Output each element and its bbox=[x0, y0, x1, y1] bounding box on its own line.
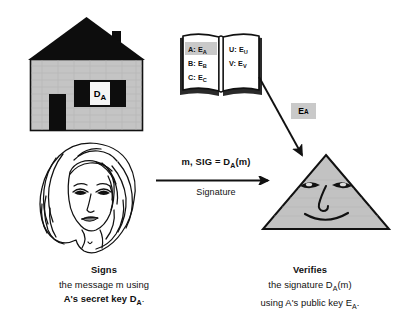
verifier-caption: Verifies the signature DA(m) using A's p… bbox=[212, 263, 408, 314]
diagram-canvas: DA A: EA B: EB C: EC bbox=[0, 0, 413, 327]
house-window-key-label: DA bbox=[90, 88, 110, 102]
woman-face-icon bbox=[26, 138, 156, 260]
house-icon bbox=[28, 14, 148, 134]
verifier-caption-heading: Verifies bbox=[212, 263, 408, 278]
verifier-caption-line-2: using A's public key EA. bbox=[212, 296, 408, 314]
verifier-figure bbox=[260, 152, 392, 234]
public-key-chip: EA bbox=[291, 103, 316, 119]
signer-caption-heading: Signs bbox=[6, 263, 202, 278]
directory-entry-b[interactable]: B: EB bbox=[188, 59, 207, 69]
directory-entry-v[interactable]: V: EV bbox=[229, 59, 247, 69]
signer-figure bbox=[26, 138, 156, 260]
public-key-directory[interactable]: A: EA B: EB C: EC U: EU V: EV bbox=[176, 29, 266, 101]
verifier-caption-line-1: the signature DA(m) bbox=[212, 278, 408, 296]
signer-caption-line-1: the message m using bbox=[6, 278, 202, 293]
house-figure: DA bbox=[28, 14, 148, 134]
signer-caption-line-2: A's secret key DA. bbox=[6, 292, 202, 310]
directory-entry-c[interactable]: C: EC bbox=[188, 73, 207, 83]
directory-entry-a[interactable]: A: EA bbox=[188, 45, 207, 55]
directory-entry-u[interactable]: U: EU bbox=[229, 45, 248, 55]
signer-caption: Signs the message m using A's secret key… bbox=[6, 263, 202, 310]
triangle-face-icon bbox=[260, 152, 392, 234]
